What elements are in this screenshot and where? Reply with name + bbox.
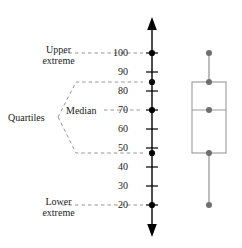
tick-label-100: 100 <box>104 48 128 58</box>
box-whisker-plot <box>192 50 226 208</box>
marker-upper-quartile <box>206 79 212 85</box>
label-quartiles: Quartiles <box>8 112 45 123</box>
marker-lower-quartile <box>206 150 212 156</box>
tick-label-60: 60 <box>104 124 128 134</box>
tick-label-40: 40 <box>104 162 128 172</box>
axis-point-upper-quartile <box>149 79 155 85</box>
label-median: Median <box>66 105 97 116</box>
marker-upper-extreme <box>206 50 212 56</box>
label-upper-extreme-line2: extreme <box>31 55 86 66</box>
quartile-box <box>192 82 226 153</box>
label-lower-extreme-line2: extreme <box>31 207 86 218</box>
label-lower-extreme-line1: Lower <box>31 196 86 207</box>
down-arrow-icon <box>147 224 157 237</box>
boxplot-diagram: 100 90 80 70 60 50 40 30 20 Upper extrem… <box>0 0 242 248</box>
tick-label-50: 50 <box>104 143 128 153</box>
marker-median <box>206 107 212 113</box>
axis-point-lower-extreme <box>149 202 155 208</box>
label-upper-extreme: Upper extreme <box>31 44 86 66</box>
up-arrow-icon <box>147 17 157 30</box>
label-lower-extreme: Lower extreme <box>31 196 86 218</box>
axis-point-lower-quartile <box>149 150 155 156</box>
axis-point-upper-extreme <box>149 50 155 56</box>
leader-lines <box>58 53 143 205</box>
tick-label-90: 90 <box>104 67 128 77</box>
axis-point-median <box>149 107 155 113</box>
tick-label-30: 30 <box>104 181 128 191</box>
tick-label-20: 20 <box>104 200 128 210</box>
tick-label-70: 70 <box>104 105 128 115</box>
leader-quartile-lower <box>58 117 143 153</box>
marker-lower-extreme <box>206 202 212 208</box>
label-upper-extreme-line1: Upper <box>31 44 86 55</box>
tick-label-80: 80 <box>104 86 128 96</box>
